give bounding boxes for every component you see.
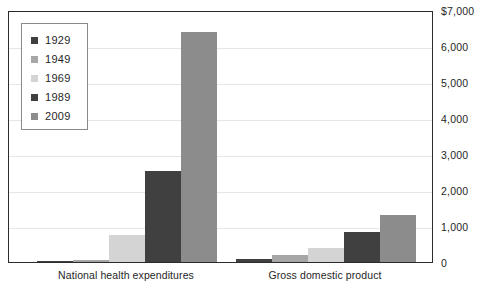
y-tick-label: 6,000 (441, 41, 468, 53)
bar-national-health-expenditures-1989 (145, 171, 181, 262)
legend-item-label: 2009 (45, 111, 71, 122)
bar-national-health-expenditures-1969 (109, 235, 145, 262)
legend-swatch-icon (31, 113, 38, 120)
legend-item-1949: 1949 (31, 50, 87, 69)
y-tick-label: 3,000 (441, 149, 468, 161)
y-tick-label: 5,000 (441, 77, 468, 89)
legend-item-label: 1949 (45, 54, 71, 65)
legend-item-label: 1989 (45, 92, 71, 103)
y-tick-label: 0 (441, 257, 447, 269)
legend-item-2009: 2009 (31, 107, 87, 126)
legend-item-label: 1929 (45, 35, 71, 46)
bar-gross-domestic-product-2009 (380, 215, 416, 262)
chart-legend: 19291949196919892009 (21, 23, 88, 130)
bar-national-health-expenditures-1929 (37, 261, 73, 263)
y-tick-label: 1,000 (441, 221, 468, 233)
legend-swatch-icon (31, 75, 38, 82)
bar-gross-domestic-product-1989 (344, 232, 380, 262)
legend-item-1969: 1969 (31, 69, 87, 88)
bar-national-health-expenditures-2009 (181, 32, 217, 262)
bar-gross-domestic-product-1969 (308, 248, 344, 262)
y-tick-label: 2,000 (441, 185, 468, 197)
legend-item-1929: 1929 (31, 31, 87, 50)
y-tick-label: 4,000 (441, 113, 468, 125)
legend-swatch-icon (31, 37, 38, 44)
bar-gross-domestic-product-1929 (236, 259, 272, 262)
y-tick-label: $7,000 (441, 5, 474, 17)
legend-item-1989: 1989 (31, 88, 87, 107)
bar-national-health-expenditures-1949 (73, 260, 109, 262)
x-category-label: Gross domestic product (268, 269, 381, 281)
legend-swatch-icon (31, 56, 38, 63)
legend-item-label: 1969 (45, 73, 71, 84)
bar-gross-domestic-product-1949 (272, 255, 308, 262)
x-category-label: National health expenditures (58, 269, 194, 281)
bar-chart: $7,0006,0005,0004,0003,0002,0001,0000 Na… (0, 0, 494, 290)
legend-swatch-icon (31, 94, 38, 101)
